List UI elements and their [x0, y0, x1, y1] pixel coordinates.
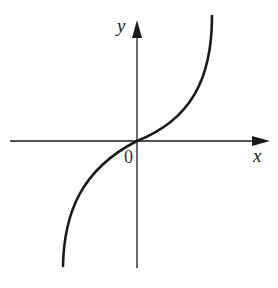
origin-label: 0 — [124, 148, 133, 166]
y-axis-label: y — [117, 16, 125, 35]
y-axis-arrow-icon — [132, 20, 142, 38]
function-graph: y x 0 — [0, 0, 278, 288]
graph-canvas — [0, 0, 278, 288]
x-axis-label: x — [253, 146, 261, 165]
